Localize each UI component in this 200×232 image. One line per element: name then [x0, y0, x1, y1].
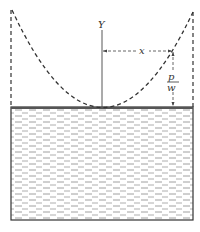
- x-dimension-label: x: [139, 45, 145, 56]
- x-arrow-left-icon: [103, 50, 107, 53]
- pressure-denominator: w: [167, 82, 176, 93]
- pressure-numerator: p: [168, 71, 175, 82]
- water-body: [11, 107, 193, 220]
- p-arrow-down-icon: [172, 102, 175, 106]
- y-axis-label: Y: [98, 19, 106, 30]
- p-arrow-up-icon: [172, 52, 175, 56]
- paraboloid-diagram: Y x p w: [0, 0, 200, 232]
